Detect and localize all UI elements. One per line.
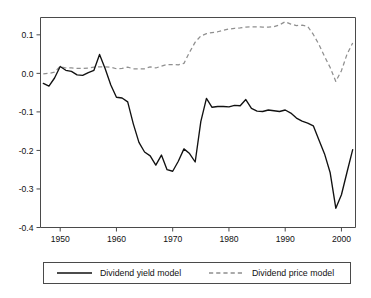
x-tick-label: 2000 — [332, 234, 351, 244]
x-tick-label: 1980 — [219, 234, 238, 244]
line-chart: 0.10.0-0.1-0.2-0.3-0.4 19501960197019801… — [0, 0, 371, 298]
x-tick-label: 1990 — [276, 234, 295, 244]
y-tick-label: -0.3 — [19, 184, 34, 194]
x-tick-label: 1970 — [163, 234, 182, 244]
y-tick-label: 0.1 — [22, 30, 34, 40]
y-tick-label: -0.4 — [19, 223, 34, 233]
x-tick-label: 1950 — [51, 234, 70, 244]
chart-figure: 0.10.0-0.1-0.2-0.3-0.4 19501960197019801… — [0, 0, 371, 298]
y-tick-label: -0.1 — [19, 107, 34, 117]
y-tick-label: 0.0 — [22, 69, 34, 79]
y-tick-label: -0.2 — [19, 146, 34, 156]
x-tick-label: 1960 — [107, 234, 126, 244]
legend-label-dividend-price-model: Dividend price model — [252, 268, 334, 278]
chart-background — [0, 0, 371, 298]
legend-label-dividend-yield-model: Dividend yield model — [100, 268, 181, 278]
